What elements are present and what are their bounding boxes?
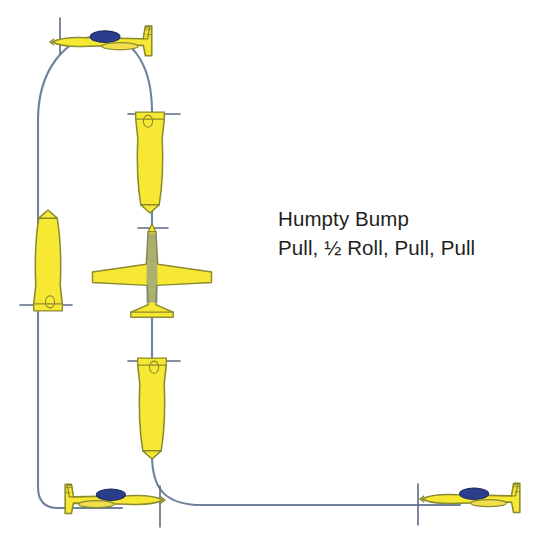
aircraft-downline-lower (138, 358, 167, 459)
maneuver-name: Humpty Bump (278, 204, 528, 233)
aircraft-entry-bottom-left (65, 484, 165, 513)
aircraft-half-roll (92, 224, 211, 317)
aircraft-exit-right (420, 483, 520, 512)
aircraft-apex-inverted (50, 26, 152, 56)
maneuver-caption: Humpty Bump Pull, ½ Roll, Pull, Pull (278, 204, 528, 262)
humpty-bump-diagram (0, 0, 545, 545)
aircraft-upline-left (34, 210, 63, 311)
aircraft-downline-upper (136, 112, 165, 213)
position-tick-marks (20, 18, 418, 527)
maneuver-sequence: Pull, ½ Roll, Pull, Pull (278, 233, 528, 262)
